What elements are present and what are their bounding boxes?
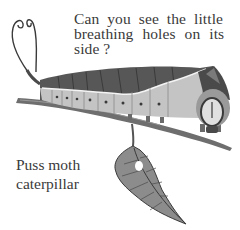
question-line-1: Can you see the little bbox=[74, 11, 240, 26]
question-line-2: breathing holes on its bbox=[74, 26, 240, 41]
species-label-line-2: caterpillar bbox=[16, 174, 80, 193]
tail-whips bbox=[12, 20, 40, 84]
species-label: Puss moth caterpillar bbox=[16, 155, 80, 193]
question-caption: Can you see the little breathing holes o… bbox=[74, 11, 240, 56]
question-line-3: side ? bbox=[74, 41, 240, 56]
hanging-leaf bbox=[115, 124, 186, 224]
species-label-line-1: Puss moth bbox=[16, 155, 80, 174]
